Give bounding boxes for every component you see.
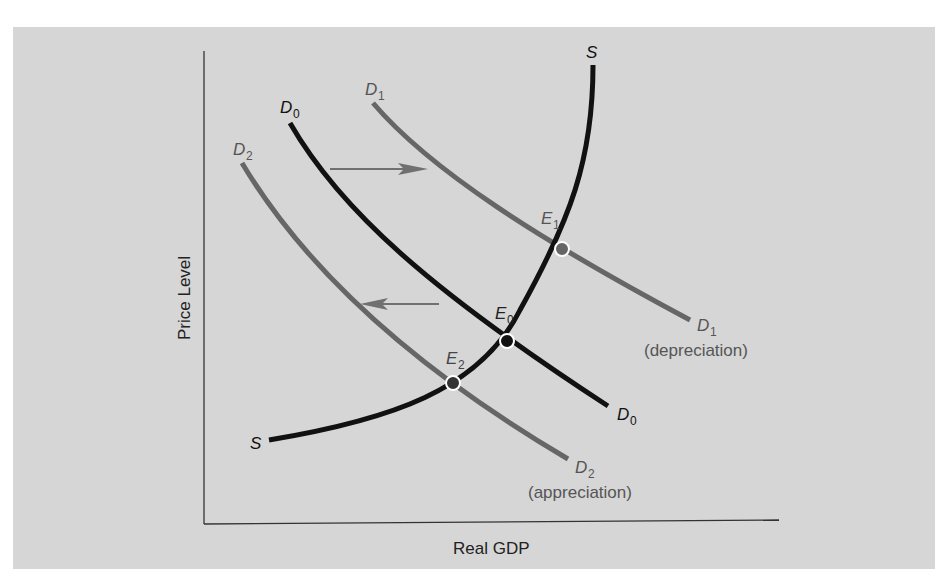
- e1-label: E 1: [541, 209, 560, 232]
- svg-text:D: D: [697, 316, 709, 335]
- shift-left-arrow-icon: [360, 298, 439, 310]
- svg-text:D: D: [575, 458, 587, 477]
- svg-text:0: 0: [293, 107, 300, 121]
- svg-text:D: D: [233, 140, 245, 159]
- d0-label-end: D 0: [617, 405, 637, 428]
- svg-text:2: 2: [246, 149, 253, 163]
- d2-label-end: D 2: [575, 458, 595, 481]
- d1-label-end: D 1: [697, 316, 717, 339]
- svg-text:1: 1: [710, 325, 717, 339]
- shift-right-arrow-icon: [330, 163, 428, 175]
- depreciation-annotation: (depreciation): [644, 341, 748, 360]
- svg-text:1: 1: [553, 218, 560, 232]
- d0-label-top: D 0: [280, 98, 300, 121]
- svg-text:0: 0: [630, 414, 637, 428]
- svg-text:1: 1: [378, 89, 385, 103]
- e0-label: E 0: [495, 304, 514, 327]
- svg-text:E: E: [541, 209, 553, 228]
- x-axis: [204, 520, 779, 524]
- equilibrium-e1: [555, 242, 569, 256]
- equilibrium-e2: [446, 376, 460, 390]
- svg-text:E: E: [446, 349, 458, 368]
- s-label-bottom: S: [250, 434, 262, 453]
- svg-text:2: 2: [588, 467, 595, 481]
- y-axis-title: Price Level: [175, 256, 194, 340]
- ad-as-diagram: Real GDP Price Level S S D 0 D 1 D 2 D 1…: [0, 0, 951, 583]
- svg-text:2: 2: [458, 358, 465, 372]
- d2-label-top: D 2: [233, 140, 253, 163]
- d1-label-top: D 1: [365, 80, 385, 103]
- supply-curve: [269, 65, 593, 440]
- svg-text:D: D: [365, 80, 377, 99]
- s-label-top: S: [586, 43, 598, 62]
- svg-text:E: E: [495, 304, 507, 323]
- x-axis-title: Real GDP: [453, 539, 530, 558]
- appreciation-annotation: (appreciation): [528, 483, 632, 502]
- e2-label: E 2: [446, 349, 465, 372]
- svg-text:D: D: [280, 98, 292, 117]
- svg-text:D: D: [617, 405, 629, 424]
- equilibrium-e0: [500, 334, 514, 348]
- svg-text:0: 0: [507, 313, 514, 327]
